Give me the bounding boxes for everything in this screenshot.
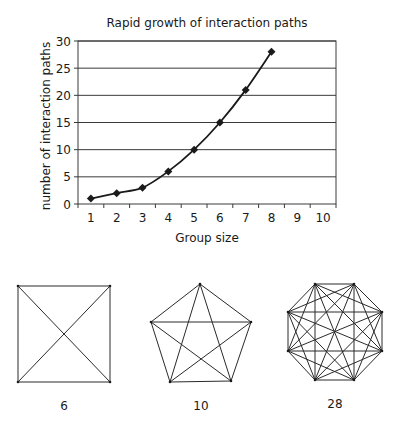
edge	[288, 351, 315, 380]
edge-count-label: 28	[327, 397, 342, 411]
x-tick-label: 4	[164, 211, 172, 225]
edge	[315, 284, 382, 351]
y-tick-label: 10	[56, 143, 71, 157]
edge	[288, 284, 315, 312]
vertex-dot	[17, 285, 20, 288]
octagon-complete-graph: 28	[287, 283, 384, 411]
edge	[151, 322, 231, 381]
complete-graph-diagrams: 61028	[17, 283, 384, 413]
vertex-dot	[287, 311, 290, 314]
vertex-dot	[353, 379, 356, 382]
pentagon-complete-graph: 10	[150, 283, 253, 413]
x-tick-label: 10	[315, 211, 330, 225]
vertex-dot	[287, 350, 290, 353]
x-tick-label: 1	[87, 211, 95, 225]
chart-title: Rapid growth of interaction paths	[106, 16, 307, 30]
edge	[354, 351, 382, 380]
square-complete-graph: 6	[17, 285, 112, 413]
vertex-dot	[250, 321, 253, 324]
data-point-diamond	[113, 189, 121, 197]
edge	[151, 284, 200, 322]
vertex-dot	[150, 321, 153, 324]
y-axis-label: number of interaction paths	[39, 42, 53, 210]
vertex-dot	[109, 285, 112, 288]
edge	[288, 312, 354, 380]
vertex-dot	[314, 283, 317, 286]
edge	[200, 284, 231, 381]
vertex-dot	[353, 283, 356, 286]
vertex-dot	[109, 381, 112, 384]
vertex-dot	[17, 381, 20, 384]
edge	[288, 312, 315, 380]
x-tick-label: 2	[113, 211, 121, 225]
x-tick-label: 6	[216, 211, 224, 225]
line-chart: 05101520253012345678910	[56, 35, 336, 226]
x-tick-label: 3	[139, 211, 147, 225]
vertex-dot	[381, 311, 384, 314]
x-axis-label: Group size	[175, 231, 239, 245]
data-point-diamond	[139, 184, 147, 192]
x-tick-label: 7	[242, 211, 250, 225]
vertex-dot	[199, 283, 202, 286]
x-tick-label: 8	[268, 211, 276, 225]
edge	[354, 284, 382, 312]
edge	[170, 381, 231, 382]
vertex-dot	[314, 379, 317, 382]
y-tick-label: 25	[56, 62, 71, 76]
y-tick-label: 0	[63, 198, 71, 212]
vertex-dot	[230, 380, 233, 383]
edge-count-label: 6	[60, 399, 68, 413]
edge	[170, 322, 251, 382]
edge-count-label: 10	[193, 399, 208, 413]
x-tick-label: 5	[190, 211, 198, 225]
edge	[200, 284, 251, 322]
y-tick-label: 20	[56, 89, 71, 103]
y-tick-label: 5	[63, 170, 71, 184]
edge	[315, 312, 382, 380]
vertex-dot	[381, 350, 384, 353]
vertex-dot	[169, 381, 172, 384]
edge	[151, 322, 170, 382]
y-tick-label: 30	[56, 35, 71, 49]
edge	[170, 284, 200, 382]
figure: Rapid growth of interaction paths 051015…	[0, 0, 396, 423]
edge	[231, 322, 251, 381]
data-point-diamond	[87, 195, 95, 203]
y-tick-label: 15	[56, 116, 71, 130]
x-tick-label: 9	[293, 211, 301, 225]
edge	[288, 284, 354, 351]
